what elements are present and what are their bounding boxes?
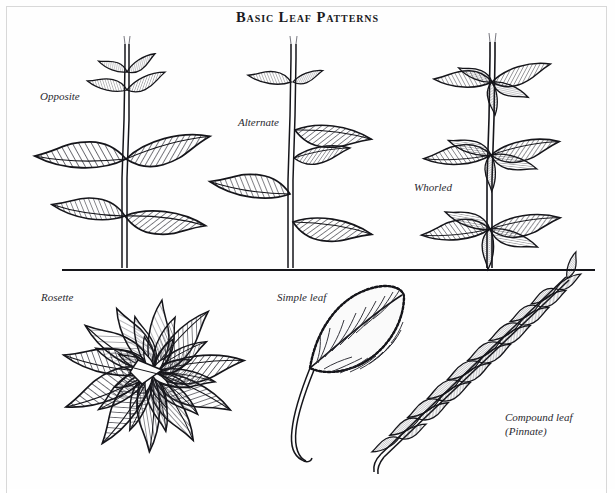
specimen-rosette [60, 299, 244, 452]
label-whorled: Whorled [414, 181, 452, 195]
specimen-simple-leaf [291, 286, 404, 462]
label-simple-leaf: Simple leaf [277, 291, 326, 305]
label-opposite: Opposite [40, 90, 80, 104]
label-alternate: Alternate [238, 116, 279, 130]
specimen-compound-leaf [369, 251, 584, 474]
specimen-alternate [208, 36, 373, 268]
specimen-whorled [421, 33, 561, 270]
section-divider-rule [62, 269, 595, 271]
specimen-opposite [34, 36, 213, 268]
label-compound-leaf: Compound leaf (Pinnate) [505, 411, 573, 439]
label-rosette: Rosette [41, 291, 73, 305]
